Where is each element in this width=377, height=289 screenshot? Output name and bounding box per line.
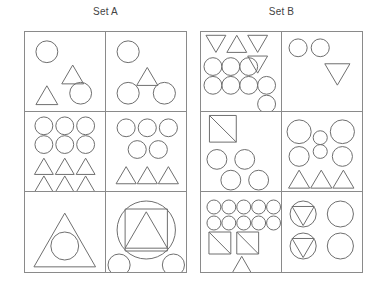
shape-triangle-up — [34, 158, 53, 174]
cell-shapes-b1 — [201, 32, 281, 111]
shape-circle — [207, 150, 227, 170]
shape-circle — [258, 95, 276, 111]
shape-circle — [207, 216, 221, 230]
cell-b6 — [282, 192, 363, 272]
shape-triangle-up — [55, 176, 74, 191]
shape-circle — [290, 233, 316, 259]
shape-circle — [222, 58, 240, 76]
cell-shapes-a3 — [25, 112, 105, 191]
shape-circle — [287, 120, 311, 144]
shape-circle — [237, 216, 251, 230]
cell-b1 — [201, 32, 282, 112]
shape-circle — [289, 39, 307, 57]
shape-circle — [313, 131, 327, 145]
shape-circle — [267, 216, 281, 230]
shape-circle — [138, 119, 156, 137]
shape-triangle-up — [288, 170, 309, 188]
shape-triangle-up — [76, 158, 95, 174]
shape-circle — [108, 254, 130, 272]
cell-shapes-b4 — [282, 112, 363, 191]
shape-triangle-up — [125, 212, 167, 248]
shape-circle — [35, 136, 53, 154]
cell-a3 — [25, 112, 106, 192]
shape-circle — [237, 200, 251, 214]
figure-canvas: Set A Set B — [0, 0, 377, 289]
shape-triangle-up — [310, 170, 331, 188]
cell-shapes-b6 — [282, 192, 363, 272]
shape-circle — [240, 76, 258, 94]
cell-shapes-b2 — [282, 32, 363, 111]
shape-triangle-up — [332, 170, 353, 188]
shape-circle — [56, 136, 74, 154]
shape-triangle-up — [158, 167, 178, 184]
shape-circle — [51, 232, 79, 260]
shape-triangle-down — [292, 206, 314, 225]
shape-circle — [128, 141, 146, 159]
shape-circle — [149, 141, 167, 159]
shape-triangle-up — [227, 35, 247, 52]
set-b-panel: Set B — [200, 0, 363, 289]
shape-circle — [252, 200, 266, 214]
shape-circle — [162, 254, 184, 272]
shape-square-diagonal — [209, 232, 231, 254]
cell-shapes-b3 — [201, 112, 281, 191]
shape-square-diagonal — [237, 232, 259, 254]
shape-circle — [222, 76, 240, 94]
cell-a2 — [106, 32, 187, 112]
cell-shapes-a6 — [106, 192, 187, 272]
shape-circle — [332, 147, 352, 167]
cell-b5 — [201, 192, 282, 272]
cell-a4 — [106, 112, 187, 192]
shape-circle — [77, 136, 95, 154]
shape-triangle-down — [292, 238, 314, 257]
cell-shapes-a5 — [25, 192, 105, 272]
shape-circle — [258, 76, 276, 94]
shape-triangle-up — [55, 158, 74, 174]
shape-circle — [290, 201, 316, 227]
shape-circle — [267, 200, 281, 214]
cell-b3 — [201, 112, 282, 192]
shape-circle — [327, 233, 353, 259]
shape-circle — [70, 82, 92, 104]
shape-triangle-up — [34, 213, 96, 267]
shape-circle — [249, 170, 269, 190]
shape-triangle-up — [76, 176, 95, 191]
shape-circle — [222, 216, 236, 230]
set-b-grid — [200, 31, 363, 273]
shape-circle — [153, 82, 175, 104]
shape-circle — [117, 41, 139, 63]
shape-circle — [204, 58, 222, 76]
shape-triangle-down — [324, 64, 349, 85]
shape-circle — [117, 201, 175, 259]
set-a-title: Set A — [24, 6, 187, 18]
cell-b4 — [282, 112, 363, 192]
cell-shapes-b5 — [201, 192, 281, 272]
cell-shapes-a1 — [25, 32, 105, 111]
shape-circle — [117, 119, 135, 137]
shape-square-diagonal — [209, 115, 236, 142]
shape-triangle-up — [34, 176, 53, 191]
shape-triangle-up — [36, 86, 58, 105]
shape-circle — [159, 119, 177, 137]
shape-circle — [207, 200, 221, 214]
shape-circle — [117, 82, 139, 104]
set-a-panel: Set A — [24, 0, 187, 289]
shape-circle — [36, 41, 58, 63]
shape-circle — [77, 117, 95, 135]
shape-triangle-up — [116, 167, 136, 184]
shape-circle — [311, 39, 329, 57]
shape-circle — [204, 76, 222, 94]
cell-a5 — [25, 192, 106, 272]
shape-circle — [222, 200, 236, 214]
shape-circle — [289, 147, 309, 167]
shape-circle — [56, 117, 74, 135]
shape-triangle-up — [136, 67, 157, 85]
shape-circle — [330, 120, 354, 144]
set-b-title: Set B — [200, 6, 363, 18]
shape-triangle-down — [206, 35, 226, 52]
shape-square — [125, 209, 167, 251]
shape-triangle-up — [137, 167, 157, 184]
shape-circle — [221, 170, 241, 190]
shape-circle — [313, 145, 327, 159]
shape-circle — [327, 201, 353, 227]
